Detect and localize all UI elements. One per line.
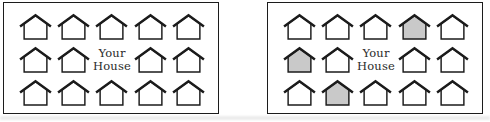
shaded-house-icon: [321, 79, 354, 106]
grid-cell: [434, 10, 472, 43]
neighborhood-panel-left: YourHouse: [3, 2, 219, 114]
house-icon: [95, 13, 128, 40]
house-icon: [321, 46, 354, 73]
house-icon: [19, 46, 52, 73]
grid-cell: [16, 76, 54, 109]
house-icon: [359, 79, 392, 106]
house-icon: [134, 79, 167, 106]
grid-cell: [131, 76, 169, 109]
house-grid: YourHouse: [268, 3, 482, 113]
grid-cell: [54, 10, 92, 43]
grid-cell: [170, 10, 208, 43]
grid-cell: [16, 43, 54, 76]
grid-cell: YourHouse: [357, 43, 395, 76]
house-icon: [57, 13, 90, 40]
neighborhood-panel-right: YourHouse: [267, 2, 483, 114]
house-icon: [359, 13, 392, 40]
grid-cell: [357, 10, 395, 43]
house-icon: [19, 79, 52, 106]
house-icon: [436, 79, 469, 106]
grid-cell: [16, 10, 54, 43]
grid-cell: [280, 43, 318, 76]
house-icon: [436, 46, 469, 73]
house-icon: [398, 46, 431, 73]
your-house-label-line2: House: [357, 59, 395, 73]
house-icon: [57, 79, 90, 106]
grid-cell: [280, 10, 318, 43]
shaded-house-icon: [398, 13, 431, 40]
house-icon: [19, 13, 52, 40]
grid-cell: [357, 76, 395, 109]
grid-cell: [318, 10, 356, 43]
grid-cell: [54, 76, 92, 109]
your-house-label-line1: Your: [362, 46, 389, 60]
figure-canvas: YourHouse YourHouse: [0, 0, 490, 122]
grid-cell: [93, 10, 131, 43]
grid-cell: [434, 43, 472, 76]
grid-cell: [170, 76, 208, 109]
house-icon: [95, 79, 128, 106]
house-icon: [57, 46, 90, 73]
grid-cell: [318, 43, 356, 76]
your-house-label: YourHouse: [93, 47, 131, 73]
house-icon: [172, 79, 205, 106]
grid-cell: [131, 10, 169, 43]
grid-cell: [54, 43, 92, 76]
house-icon: [172, 46, 205, 73]
house-icon: [283, 79, 316, 106]
shaded-house-icon: [283, 46, 316, 73]
grid-cell: YourHouse: [93, 43, 131, 76]
house-icon: [436, 13, 469, 40]
grid-cell: [131, 43, 169, 76]
house-icon: [321, 13, 354, 40]
scan-shadow: [0, 116, 490, 120]
grid-cell: [395, 43, 433, 76]
grid-cell: [280, 76, 318, 109]
grid-cell: [395, 76, 433, 109]
grid-cell: [93, 76, 131, 109]
grid-cell: [318, 76, 356, 109]
house-grid: YourHouse: [4, 3, 218, 113]
grid-cell: [170, 43, 208, 76]
house-icon: [283, 13, 316, 40]
house-icon: [172, 13, 205, 40]
house-icon: [134, 46, 167, 73]
your-house-label-line2: House: [93, 59, 131, 73]
your-house-label-line1: Your: [98, 46, 125, 60]
grid-cell: [395, 10, 433, 43]
your-house-label: YourHouse: [357, 47, 395, 73]
grid-cell: [434, 76, 472, 109]
house-icon: [398, 79, 431, 106]
house-icon: [134, 13, 167, 40]
